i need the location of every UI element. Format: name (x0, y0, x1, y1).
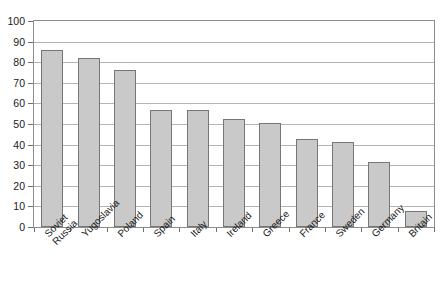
y-axis: 1009080706050403020100 (0, 20, 29, 228)
bars-group (34, 21, 434, 227)
y-axis-tick-label: 100 (7, 16, 25, 27)
y-axis-tick-label: 70 (13, 78, 25, 89)
bar (187, 110, 209, 227)
y-axis-tick-label: 90 (13, 36, 25, 47)
bar (78, 58, 100, 227)
bar-chart: 1009080706050403020100 SovietRussiaYugos… (0, 0, 445, 284)
bar (150, 110, 172, 227)
y-axis-tick-label: 80 (13, 57, 25, 68)
y-axis-tick-label: 40 (13, 139, 25, 150)
y-axis-tick-label: 20 (13, 181, 25, 192)
bar (259, 123, 281, 227)
y-axis-tick-label: 30 (13, 160, 25, 171)
x-axis-labels: SovietRussiaYugoslaviaPolandSpainItalyIr… (0, 228, 445, 284)
bar (41, 50, 63, 227)
y-axis-tick-label: 50 (13, 119, 25, 130)
bar (223, 119, 245, 227)
y-axis-tick-label: 60 (13, 98, 25, 109)
y-axis-tick-label: 10 (13, 201, 25, 212)
